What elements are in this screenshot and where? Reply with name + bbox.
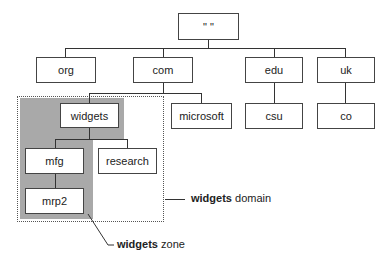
zone-label-rest: zone xyxy=(158,238,185,250)
dns-tree-diagram: " " org com edu uk widgets microsoft csu… xyxy=(0,0,392,270)
widgets-zone-label: widgets zone xyxy=(117,238,185,250)
zone-leader-line xyxy=(0,0,392,270)
zone-label-bold: widgets xyxy=(117,238,158,250)
